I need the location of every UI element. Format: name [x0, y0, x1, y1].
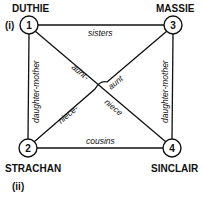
edge-label-niece-1-4: niece: [103, 97, 125, 118]
node-4: 4: [163, 139, 181, 157]
kinship-diagram: 1 3 2 4 DUTHIE MASSIE STRACHAN SINCLAIR …: [0, 0, 203, 204]
svg-text:2: 2: [25, 143, 31, 154]
svg-text:4: 4: [169, 143, 175, 154]
edge-daughter-mother-right: [172, 34, 173, 139]
label-duthie: DUTHIE: [12, 3, 50, 14]
edge-aunt-niece-1-4: [35, 31, 166, 142]
node-3: 3: [164, 16, 182, 34]
edge-label-daughter-mother-left: daughter-mother: [31, 59, 41, 123]
edge-label-aunt-1-4: aunt-: [70, 62, 91, 82]
label-strachan: STRACHAN: [5, 163, 61, 174]
group-label-i: (i): [5, 20, 14, 31]
edge-label-aunt-3-2: aunt: [106, 73, 126, 92]
node-1: 1: [20, 16, 38, 34]
edge-daughter-mother-left: [28, 34, 29, 139]
node-2: 2: [19, 139, 37, 157]
group-label-ii: (ii): [12, 181, 24, 192]
edge-label-niece-3-2: niece-: [56, 103, 80, 126]
label-massie: MASSIE: [156, 3, 195, 14]
svg-text:3: 3: [170, 20, 176, 31]
edge-label-cousins: cousins: [86, 136, 116, 146]
edge-label-sisters: sisters: [88, 28, 113, 38]
svg-text:1: 1: [26, 20, 32, 31]
edge-label-daughter-mother-right: daughter-mother: [160, 59, 170, 123]
label-sinclair: SINCLAIR: [151, 163, 199, 174]
